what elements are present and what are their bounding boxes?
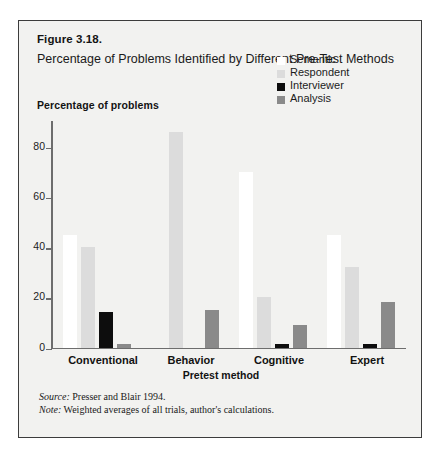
bar (63, 235, 77, 348)
y-tick-mark (46, 198, 52, 200)
note-line: Note: Weighted averages of all trials, a… (39, 404, 409, 417)
source-label: Source: (39, 391, 70, 402)
plot-area: 806040200 ConventionalBehaviorCognitiveE… (51, 121, 406, 349)
legend-label: Respondent (290, 66, 349, 79)
y-axis-line (51, 121, 53, 349)
legend-item: Analysis (277, 93, 377, 106)
source-note: Source: Presser and Blair 1994. Note: We… (39, 391, 409, 416)
y-tick-mark (46, 298, 52, 300)
source-line: Source: Presser and Blair 1994. (39, 391, 409, 404)
y-tick-label: 20 (33, 290, 45, 302)
legend-label: Semantic (290, 53, 336, 66)
bar (275, 344, 289, 348)
bar (99, 312, 113, 347)
y-tick-mark (46, 148, 52, 150)
note-label: Note: (39, 404, 61, 415)
bar-group: Cognitive (239, 122, 319, 348)
figure-number: Figure 3.18. (37, 33, 102, 45)
legend-label: Interviewer (290, 79, 344, 92)
bar (205, 310, 219, 348)
bar (169, 132, 183, 348)
y-tick-mark (46, 248, 52, 250)
x-axis-category-label: Expert (327, 354, 407, 366)
bar (293, 325, 307, 348)
bar-group: Expert (327, 122, 407, 348)
x-axis-line (51, 348, 406, 350)
bar-group: Behavior (151, 122, 231, 348)
y-tick-label: 0 (39, 341, 45, 353)
legend-swatch-icon (277, 70, 285, 78)
bar (117, 344, 131, 348)
legend-swatch-icon (277, 96, 285, 104)
x-axis-category-label: Cognitive (239, 354, 319, 366)
bar (257, 297, 271, 347)
legend-label: Analysis (290, 92, 331, 105)
bar (381, 302, 395, 347)
y-tick-mark (46, 349, 52, 351)
x-axis-category-label: Behavior (151, 354, 231, 366)
bar (327, 235, 341, 348)
y-tick-label: 80 (33, 140, 45, 152)
source-text: Presser and Blair 1994. (70, 391, 166, 402)
bar-group: Conventional (63, 122, 143, 348)
note-text: Weighted averages of all trials, author'… (61, 404, 274, 415)
x-axis-category-label: Conventional (63, 354, 143, 366)
bar (239, 172, 253, 348)
bar (363, 344, 377, 348)
bar (345, 267, 359, 347)
bar (81, 247, 95, 347)
x-axis-title: Pretest method (19, 369, 423, 381)
legend-swatch-icon (277, 83, 285, 91)
y-axis-title: Percentage of problems (37, 99, 159, 111)
chart-legend: SemanticRespondentInterviewerAnalysis (277, 54, 377, 106)
figure-card: Figure 3.18. Percentage of Problems Iden… (18, 20, 422, 438)
y-tick-label: 60 (33, 190, 45, 202)
legend-swatch-icon (277, 57, 285, 65)
y-tick-label: 40 (33, 240, 45, 252)
